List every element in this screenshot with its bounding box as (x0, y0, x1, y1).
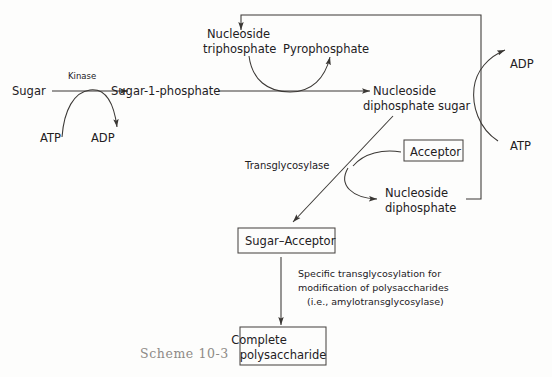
diagram-canvas: Sugar Kinase ATP ADP Sugar-1-phosphate N… (0, 0, 552, 377)
annotation-line2: modification of polysaccharides (298, 282, 449, 293)
label-adp-left: ADP (91, 131, 115, 145)
label-pyrophosphate: Pyrophosphate (283, 42, 369, 56)
curve-atp-to-adp-kinase (62, 90, 117, 137)
label-complete-polysaccharide-line2: polysaccharide (240, 348, 327, 362)
label-kinase: Kinase (68, 71, 96, 81)
label-ndp-sugar-line2: diphosphate sugar (363, 99, 471, 113)
curve-acceptor-in (353, 151, 401, 166)
label-sugar: Sugar (12, 84, 46, 98)
label-nucleoside-triphosphate-line2: triphosphate (203, 42, 276, 56)
annotation-line1: Specific transglycosylation for (298, 268, 441, 279)
label-ndp-sugar-line1: Nucleoside (373, 84, 436, 98)
figure-caption: Scheme 10-3 (140, 346, 229, 361)
label-nucleoside-diphosphate-line1: Nucleoside (385, 186, 448, 200)
label-sugar-acceptor: Sugar–Acceptor (245, 234, 336, 248)
label-adp-right: ADP (510, 57, 534, 71)
label-atp-left: ATP (40, 131, 61, 145)
label-transglycosylase: Transglycosylase (244, 160, 329, 171)
label-acceptor: Acceptor (410, 145, 461, 159)
label-atp-right: ATP (510, 139, 531, 153)
label-nucleoside-triphosphate-line1: Nucleoside (207, 27, 270, 41)
label-complete-polysaccharide-line1: Complete (231, 333, 286, 347)
label-sugar-1-phosphate: Sugar-1-phosphate (111, 84, 220, 98)
label-nucleoside-diphosphate-line2: diphosphate (385, 201, 456, 215)
annotation-line3: (i.e., amylotransglycosylase) (307, 296, 444, 307)
scheme-diagram: Sugar Kinase ATP ADP Sugar-1-phosphate N… (0, 0, 552, 377)
curve-atp-to-adp-right (474, 50, 505, 141)
curve-ndp-out (345, 168, 377, 199)
curve-ntp-to-pyrophosphate (249, 56, 330, 92)
